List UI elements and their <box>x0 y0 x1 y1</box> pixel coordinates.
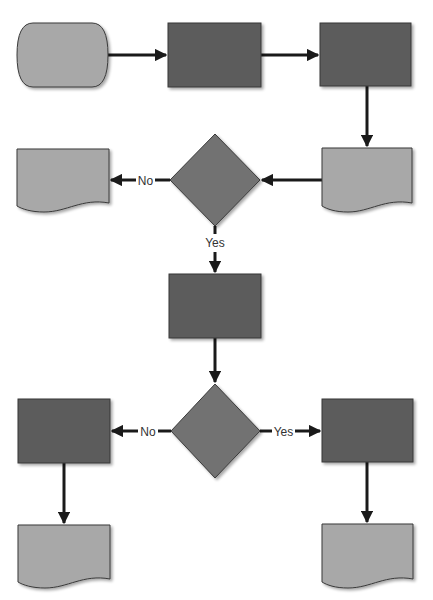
decision-2-no-label: No <box>140 425 156 439</box>
document-bottom-left-shape[interactable] <box>18 525 110 588</box>
terminal-start-shape[interactable] <box>17 23 108 87</box>
document-right-shape[interactable] <box>322 148 412 212</box>
process-box-3[interactable] <box>169 274 261 338</box>
process-box-2[interactable] <box>320 23 411 86</box>
flowchart-diagram: No Yes No Yes <box>0 0 433 600</box>
nodes <box>17 23 413 588</box>
process-box-1[interactable] <box>168 23 261 87</box>
process-box-4[interactable] <box>18 399 110 463</box>
decision-diamond-1[interactable] <box>170 134 260 226</box>
decision-1-no-label: No <box>138 174 154 188</box>
decision-2-yes-label: Yes <box>274 425 294 439</box>
document-bottom-right-shape[interactable] <box>322 524 413 588</box>
decision-diamond-2[interactable] <box>171 384 260 478</box>
process-box-5[interactable] <box>322 399 413 462</box>
decision-1-yes-label: Yes <box>205 236 225 250</box>
document-left-shape[interactable] <box>17 149 109 212</box>
